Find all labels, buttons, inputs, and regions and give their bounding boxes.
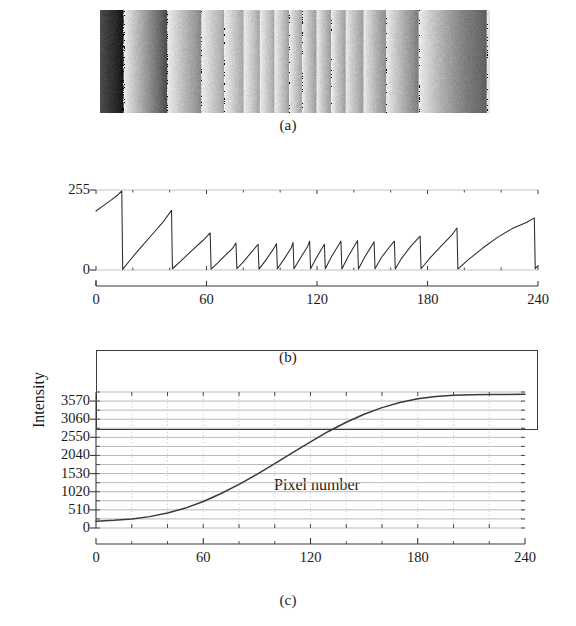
panel-b-xtick-0: 0 [71,292,121,307]
panel-c-ytick-2550: 2550 [36,429,90,444]
panel-a-caption: (a) [0,117,576,134]
panel-c-xtick-240: 240 [500,550,550,565]
panel-c-ytick-2040: 2040 [36,447,90,462]
panel-c-ytick-0: 0 [36,520,90,535]
panel-c-ytick-3570: 3570 [36,393,90,408]
panel-c-xtick-180: 180 [393,550,443,565]
panel-b-caption: (b) [0,349,576,366]
fringe-pattern-canvas [100,10,490,113]
panel-b-plot: Intensity Pixel number 0255060120180240 [0,160,576,345]
panel-b-xtick-120: 120 [292,292,342,307]
panel-b-xtick-240: 240 [513,292,563,307]
panel-c-xtick-120: 120 [286,550,336,565]
figure-root: (a) Intensity Pixel number 0255060120180… [0,0,576,626]
panel-c-plot: Intensity Pixel number 05101020153020402… [0,380,576,585]
panel-b-ytick-255: 255 [40,182,90,197]
panel-c-xtick-0: 0 [71,550,121,565]
panel-c-ytick-3060: 3060 [36,411,90,426]
fringe-pattern-image [100,10,490,113]
panel-b-ytick-0: 0 [40,262,90,277]
panel-b-xtick-60: 60 [182,292,232,307]
panel-c-ytick-510: 510 [36,502,90,517]
panel-c-caption: (c) [0,592,576,609]
panel-c-xtick-60: 60 [178,550,228,565]
panel-b-xtick-180: 180 [403,292,453,307]
panel-c-ytick-1530: 1530 [36,466,90,481]
panel-c-ytick-1020: 1020 [36,484,90,499]
